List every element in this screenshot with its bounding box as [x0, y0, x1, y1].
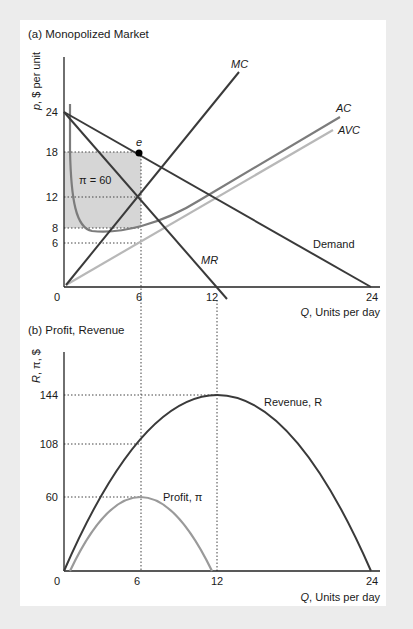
- mr-label: MR: [201, 254, 218, 266]
- ac-label: AC: [335, 102, 351, 114]
- equilibrium-point: [136, 150, 143, 157]
- x-axis-label-a: Q, Units per day: [301, 306, 381, 318]
- profit-label: Profit, π: [163, 491, 203, 503]
- xtick-12: 12: [206, 291, 218, 303]
- demand-label: Demand: [313, 238, 355, 250]
- panel-a-title: (a) Monopolized Market: [28, 28, 150, 40]
- xtick-6: 6: [136, 291, 142, 303]
- ytick-144: 144: [40, 389, 58, 401]
- ytick-24: 24: [46, 106, 58, 118]
- mc-label: MC: [231, 58, 248, 70]
- x-ticks-a: 0 6 12 24: [54, 291, 378, 303]
- avc-label: AVC: [337, 124, 360, 136]
- xtick-b-0: 0: [54, 575, 60, 587]
- x-ticks-b: 0 6 12 24: [54, 575, 378, 587]
- y-ticks-a: 24 18 12 8 6: [46, 106, 58, 249]
- monopoly-chart: (a) Monopolized Market π = 60 e MC: [0, 0, 413, 629]
- profit-area: [64, 152, 141, 228]
- panel-a: (a) Monopolized Market π = 60 e MC: [28, 28, 380, 571]
- panel-b-title: (b) Profit, Revenue: [28, 324, 125, 336]
- ytick-108: 108: [40, 438, 58, 450]
- revenue-label: Revenue, R: [264, 396, 322, 408]
- x-axis-label-b: Q, Units per day: [301, 591, 381, 603]
- panel-b: (b) Profit, Revenue Revenue, R Profit, π…: [28, 324, 380, 603]
- ytick-60: 60: [46, 491, 58, 503]
- y-axis-label-a: p, $ per unit: [30, 52, 42, 111]
- xtick-b-6: 6: [134, 575, 140, 587]
- xtick-0: 0: [54, 291, 60, 303]
- point-e-label: e: [136, 136, 142, 148]
- ytick-6: 6: [52, 237, 58, 249]
- xtick-b-24: 24: [366, 575, 378, 587]
- ytick-18: 18: [46, 146, 58, 158]
- xtick-b-12: 12: [211, 575, 223, 587]
- profit-area-label: π = 60: [79, 174, 111, 186]
- y-axis-label-b: R, π, $: [30, 349, 42, 383]
- xtick-24: 24: [366, 291, 378, 303]
- y-ticks-b: 144 108 60: [40, 389, 58, 503]
- ytick-12: 12: [46, 191, 58, 203]
- ytick-8: 8: [52, 222, 58, 234]
